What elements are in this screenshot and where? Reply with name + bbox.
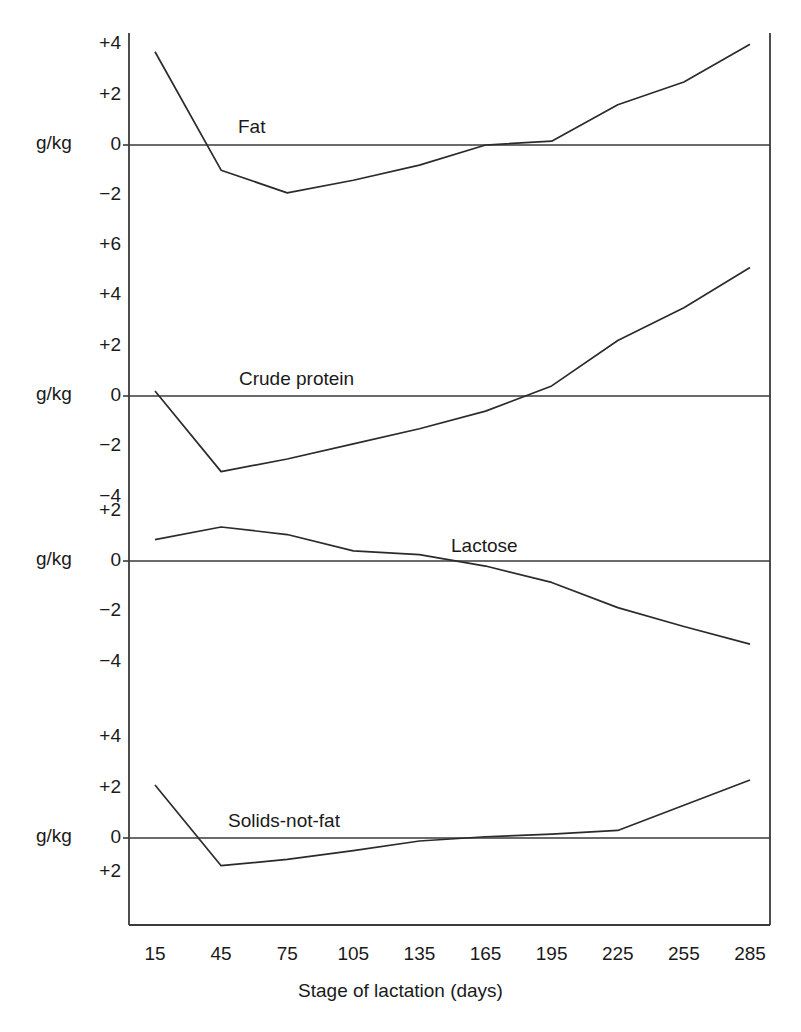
y-tick-label: 0 — [71, 133, 121, 155]
y-tick-label: −4 — [71, 650, 121, 672]
y-tick-label: +4 — [71, 32, 121, 54]
x-tick-label: 15 — [130, 943, 180, 965]
y-tick-label: −2 — [71, 434, 121, 456]
y-unit-label-2: g/kg — [36, 383, 72, 405]
y-tick-label: +6 — [71, 233, 121, 255]
y-tick-label: +4 — [71, 283, 121, 305]
x-tick-label: 225 — [593, 943, 643, 965]
chart-figure: +4+20−2g/kgFat+6+4+20−2−4g/kgCrude prote… — [0, 0, 801, 1032]
x-tick-label: 255 — [659, 943, 709, 965]
y-tick-label: +2 — [71, 776, 121, 798]
x-tick-label: 195 — [527, 943, 577, 965]
y-unit-label-4: g/kg — [36, 825, 72, 847]
y-tick-label: 0 — [71, 384, 121, 406]
x-tick-label: 135 — [394, 943, 444, 965]
y-tick-label: +2 — [71, 499, 121, 521]
y-tick-label: +2 — [71, 334, 121, 356]
y-unit-label-3: g/kg — [36, 548, 72, 570]
y-tick-label: +2 — [71, 860, 121, 882]
y-tick-label: 0 — [71, 826, 121, 848]
y-tick-label: 0 — [71, 549, 121, 571]
x-tick-label: 75 — [262, 943, 312, 965]
x-tick-label: 285 — [725, 943, 775, 965]
series-label-crude-protein: Crude protein — [239, 368, 354, 390]
series-label-fat: Fat — [238, 116, 265, 138]
x-tick-label: 165 — [461, 943, 511, 965]
y-unit-label-1: g/kg — [36, 132, 72, 154]
series-label-lactose: Lactose — [451, 535, 518, 557]
x-axis-title: Stage of lactation (days) — [0, 980, 801, 1002]
series-label-solids-not-fat: Solids-not-fat — [228, 810, 340, 832]
y-tick-label: +2 — [71, 83, 121, 105]
y-tick-label: −2 — [71, 183, 121, 205]
y-tick-label: +4 — [71, 725, 121, 747]
x-tick-label: 105 — [328, 943, 378, 965]
x-tick-label: 45 — [196, 943, 246, 965]
y-tick-label: −2 — [71, 599, 121, 621]
